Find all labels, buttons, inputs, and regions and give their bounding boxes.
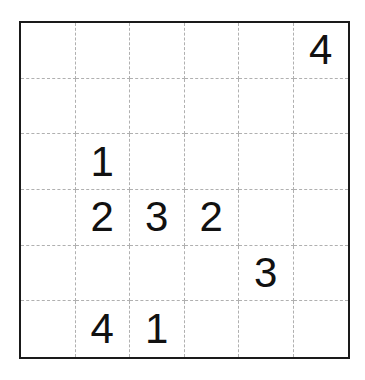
grid-cell-r3-c2[interactable]: 3 <box>130 190 185 246</box>
grid-cell-r2-c0[interactable] <box>21 134 76 190</box>
grid-cell-r2-c1[interactable]: 1 <box>76 134 131 190</box>
grid-cell-r2-c2[interactable] <box>130 134 185 190</box>
grid-cell-r5-c4[interactable] <box>239 301 294 357</box>
grid-cell-r0-c3[interactable] <box>185 23 240 79</box>
grid-cell-r0-c5[interactable]: 4 <box>294 23 349 79</box>
grid-cell-r5-c0[interactable] <box>21 301 76 357</box>
grid-cell-r4-c1[interactable] <box>76 246 131 302</box>
grid-cell-r1-c2[interactable] <box>130 79 185 135</box>
grid-cell-r5-c2[interactable]: 1 <box>130 301 185 357</box>
grid-cell-r1-c4[interactable] <box>239 79 294 135</box>
grid-cell-r3-c1[interactable]: 2 <box>76 190 131 246</box>
grid-cell-r4-c2[interactable] <box>130 246 185 302</box>
grid-cell-r4-c0[interactable] <box>21 246 76 302</box>
grid-cell-r1-c1[interactable] <box>76 79 131 135</box>
grid-cell-r5-c5[interactable] <box>294 301 349 357</box>
grid-cell-r2-c3[interactable] <box>185 134 240 190</box>
grid-cell-r4-c5[interactable] <box>294 246 349 302</box>
grid-cell-r2-c4[interactable] <box>239 134 294 190</box>
grid-cell-r3-c4[interactable] <box>239 190 294 246</box>
puzzle-board: 41232341 <box>19 21 350 359</box>
grid-cell-r5-c3[interactable] <box>185 301 240 357</box>
grid-cell-r4-c3[interactable] <box>185 246 240 302</box>
grid-cell-r5-c1[interactable]: 4 <box>76 301 131 357</box>
grid-cell-r1-c5[interactable] <box>294 79 349 135</box>
grid-cell-r2-c5[interactable] <box>294 134 349 190</box>
grid-cell-r0-c4[interactable] <box>239 23 294 79</box>
grid-cell-r3-c5[interactable] <box>294 190 349 246</box>
grid-cell-r4-c4[interactable]: 3 <box>239 246 294 302</box>
grid-cell-r3-c0[interactable] <box>21 190 76 246</box>
grid-cell-r0-c1[interactable] <box>76 23 131 79</box>
grid-cell-r0-c0[interactable] <box>21 23 76 79</box>
grid-cell-r1-c0[interactable] <box>21 79 76 135</box>
grid-cell-r0-c2[interactable] <box>130 23 185 79</box>
grid-cell-r3-c3[interactable]: 2 <box>185 190 240 246</box>
grid-cell-r1-c3[interactable] <box>185 79 240 135</box>
